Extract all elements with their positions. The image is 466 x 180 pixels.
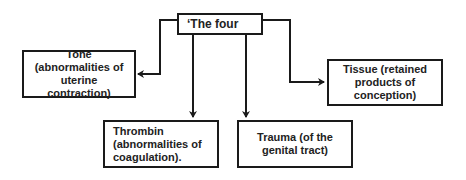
edge-root-tone (138, 20, 177, 74)
diagram-canvas: ‘The four Tone (abnormalities of uterine… (0, 0, 466, 180)
root-node-the-four: ‘The four (177, 13, 263, 35)
node-tissue: Tissue (retained products of conception) (327, 59, 443, 106)
node-thrombin: Thrombin (abnormalities of coagulation). (103, 120, 219, 168)
node-trauma: Trauma (of the genital tract) (237, 120, 353, 168)
root-node-label: ‘The four (187, 18, 238, 31)
node-thrombin-label: Thrombin (abnormalities of coagulation). (113, 125, 213, 164)
node-tone: Tone (abnormalities of uterine contracti… (22, 50, 136, 98)
node-tone-label: Tone (abnormalities of uterine contracti… (28, 48, 130, 100)
node-tissue-label: Tissue (retained products of conception) (339, 63, 431, 102)
node-trauma-label: Trauma (of the genital tract) (253, 131, 337, 157)
edge-root-tissue (262, 20, 324, 82)
